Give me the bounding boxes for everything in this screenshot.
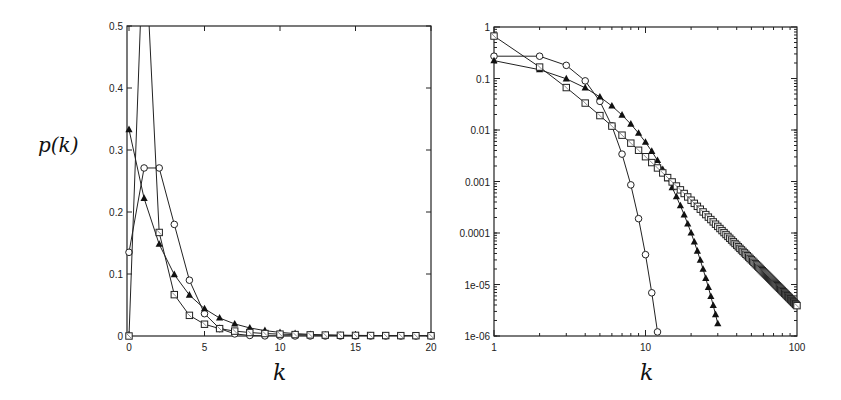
triangle-marker	[691, 238, 698, 245]
series-line	[129, 168, 431, 336]
x-axis-label-left: k	[273, 360, 286, 385]
triangle-marker	[618, 111, 625, 118]
x-tick-label: 100	[789, 342, 806, 353]
right-chart-panel: 11010010.10.010.0010.00011e-051e-06	[459, 22, 805, 353]
left-chart-panel: 0510152000.10.20.30.40.5	[109, 0, 437, 353]
triangle-marker	[673, 193, 680, 200]
y-tick-label: 0.4	[109, 83, 123, 94]
y-tick-label: 1	[484, 22, 490, 33]
x-tick-label: 1	[491, 342, 497, 353]
x-tick-label: 0	[126, 342, 132, 353]
y-tick-label: 0.5	[109, 21, 123, 32]
circle-marker	[642, 251, 649, 258]
y-axis-label: p(k)	[38, 133, 79, 157]
triangle-marker	[700, 265, 707, 272]
triangle-marker	[171, 271, 178, 278]
triangle-marker	[141, 194, 148, 201]
circle-marker	[141, 165, 148, 172]
y-tick-label: 0.2	[109, 207, 123, 218]
circle-marker	[186, 277, 193, 284]
series-line	[494, 56, 658, 332]
triangle-marker	[702, 274, 709, 281]
y-tick-label: 0.0001	[459, 228, 490, 239]
x-tick-label: 10	[640, 342, 652, 353]
triangle-marker	[697, 256, 704, 263]
circle-marker	[171, 221, 178, 228]
triangle-marker	[216, 314, 223, 321]
circle-marker	[654, 329, 661, 336]
triangle-marker	[677, 202, 684, 209]
y-tick-label: 1e-06	[464, 331, 490, 342]
series-line	[129, 130, 431, 336]
triangle-marker	[714, 320, 721, 327]
circle-marker	[201, 310, 208, 317]
y-tick-label: 0	[117, 331, 123, 342]
triangle-marker	[688, 229, 695, 236]
triangle-marker	[684, 220, 691, 227]
y-tick-label: 0.1	[109, 269, 123, 280]
circle-marker	[635, 215, 642, 222]
triangle-marker	[705, 283, 712, 290]
x-tick-label: 15	[350, 342, 362, 353]
triangle-marker	[608, 102, 615, 109]
triangle-marker	[707, 292, 714, 299]
circle-marker	[628, 182, 635, 189]
triangle-marker	[681, 211, 688, 218]
circle-marker	[156, 165, 163, 172]
x-tick-label: 20	[425, 342, 437, 353]
circle-marker	[648, 289, 655, 296]
figure: 0510152000.10.20.30.40.5 11010010.10.010…	[0, 0, 841, 400]
x-tick-label: 5	[202, 342, 208, 353]
circle-marker	[582, 78, 589, 85]
triangle-marker	[712, 311, 719, 318]
triangle-marker	[710, 301, 717, 308]
x-axis-label-right: k	[640, 360, 653, 385]
y-tick-label: 0.01	[471, 125, 491, 136]
circle-marker	[536, 53, 543, 60]
circle-marker	[126, 249, 133, 256]
circle-marker	[563, 62, 570, 69]
triangle-marker	[694, 247, 701, 254]
y-tick-label: 0.001	[465, 177, 490, 188]
series-line	[129, 0, 431, 336]
y-tick-label: 0.3	[109, 145, 123, 156]
y-tick-label: 0.1	[476, 74, 490, 85]
triangle-marker	[596, 93, 603, 100]
x-tick-label: 10	[274, 342, 286, 353]
y-tick-label: 1e-05	[464, 280, 490, 291]
plot-frame	[494, 27, 797, 336]
circle-marker	[619, 151, 626, 158]
